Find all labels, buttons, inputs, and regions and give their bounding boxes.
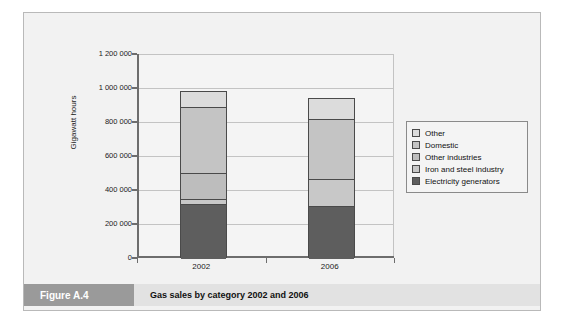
bar-segment (181, 173, 226, 198)
y-axis-tick-label: 200 000 (105, 220, 132, 228)
gridline (139, 190, 394, 191)
bar-segment (309, 99, 354, 119)
plot-area (137, 54, 394, 258)
bar-segment (309, 179, 354, 206)
gridline (139, 122, 394, 123)
y-axis-tick-labels: 0200 000400 000600 000800 0001 000 0001 … (82, 54, 132, 258)
legend-label: Other industries (425, 153, 481, 162)
figure-caption: Figure A.4 Gas sales by category 2002 an… (24, 284, 540, 306)
y-axis-tick-label: 600 000 (105, 152, 132, 160)
y-axis-tick-label: 400 000 (105, 186, 132, 194)
legend-label: Electricity generators (425, 177, 500, 186)
y-axis-tick-mark (132, 53, 137, 55)
bar-segment (181, 107, 226, 173)
y-axis-tick-mark (132, 121, 137, 123)
legend-label: Other (425, 129, 445, 138)
gridline (139, 224, 394, 225)
figure-title: Gas sales by category 2002 and 2006 (134, 284, 540, 306)
legend-swatch (412, 153, 420, 161)
bar-segment (181, 92, 226, 108)
y-axis-tick-mark (132, 189, 137, 191)
gridline (139, 54, 394, 55)
bar-segment (181, 204, 226, 259)
x-axis-tick-label: 2002 (171, 262, 231, 271)
y-axis-tick-mark (132, 155, 137, 157)
stacked-bar (308, 98, 355, 258)
stacked-bar (180, 91, 227, 258)
y-axis-tick-mark (132, 223, 137, 225)
y-axis-tick-label: 800 000 (105, 118, 132, 126)
legend-item: Electricity generators (412, 175, 521, 187)
legend-label: Domestic (425, 141, 458, 150)
y-axis-tick-label: 1 000 000 (99, 84, 132, 92)
legend-swatch (412, 165, 420, 173)
legend-item: Domestic (412, 139, 521, 151)
x-axis-tick-mark (394, 258, 395, 263)
x-axis-tick-label: 2006 (300, 262, 360, 271)
gridline (139, 156, 394, 157)
gridline (139, 88, 394, 89)
legend-swatch (412, 177, 420, 185)
y-axis-tick-mark (132, 87, 137, 89)
y-axis-title: Gigawatt hours (69, 68, 78, 178)
legend-item: Other industries (412, 151, 521, 163)
gridlines (139, 54, 394, 256)
legend-swatch (412, 141, 420, 149)
x-axis-tick-mark (266, 258, 267, 263)
legend-item: Iron and steel industry (412, 163, 521, 175)
legend-label: Iron and steel industry (425, 165, 504, 174)
x-axis-tick-mark (137, 258, 138, 263)
bar-segment (309, 119, 354, 179)
chart-legend: OtherDomesticOther industriesIron and st… (406, 121, 528, 193)
bar-segment (309, 206, 354, 259)
y-axis-tick-mark (132, 257, 137, 259)
chart-panel: Gigawatt hours 0200 000400 000600 000800… (24, 13, 540, 279)
figure-container: Gigawatt hours 0200 000400 000600 000800… (0, 0, 565, 328)
figure-number: Figure A.4 (24, 284, 134, 306)
y-axis-tick-label: 1 200 000 (99, 50, 132, 58)
legend-item: Other (412, 127, 521, 139)
legend-swatch (412, 129, 420, 137)
plot-right-border (393, 54, 394, 256)
